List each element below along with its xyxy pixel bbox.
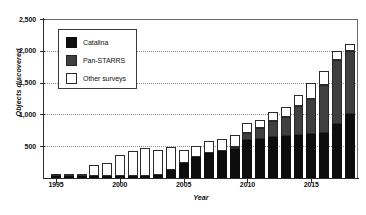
bar-segment-other-surveys bbox=[115, 155, 125, 175]
legend-swatch-pan-starrs bbox=[66, 55, 77, 66]
bar-segment-catalina bbox=[102, 176, 112, 178]
bar-segment-pan-starrs bbox=[345, 51, 355, 115]
x-tick-label: 2000 bbox=[112, 181, 127, 188]
bar-segment-other-surveys bbox=[332, 51, 342, 61]
x-tick-label: 2010 bbox=[240, 181, 255, 188]
bar-segment-other-surveys bbox=[306, 83, 316, 99]
y-tick-label: 500 bbox=[0, 143, 36, 150]
bar-segment-pan-starrs bbox=[294, 106, 304, 135]
bar-segment-other-surveys bbox=[345, 44, 355, 51]
bar-segment-catalina bbox=[281, 136, 291, 178]
bar-segment-pan-starrs bbox=[332, 60, 342, 124]
bar-segment-pan-starrs bbox=[281, 117, 291, 136]
legend-swatch-other-surveys bbox=[66, 73, 77, 84]
bar-segment-catalina bbox=[77, 176, 87, 178]
bar-segment-catalina bbox=[230, 149, 240, 178]
y-tick-label: 2,500 bbox=[0, 16, 36, 23]
bar-2000 bbox=[115, 155, 125, 178]
legend-label-other-surveys: Other surveys bbox=[83, 75, 126, 82]
legend-label-catalina: Catalina bbox=[83, 39, 108, 46]
x-axis-title: Year bbox=[44, 193, 358, 202]
bar-segment-other-surveys bbox=[191, 146, 201, 157]
bar-segment-catalina bbox=[332, 124, 342, 178]
bar-segment-other-surveys bbox=[102, 163, 112, 176]
bar-segment-catalina bbox=[115, 176, 125, 178]
bar-1996 bbox=[64, 177, 74, 178]
bar-segment-other-surveys bbox=[89, 165, 99, 176]
bar-2006 bbox=[191, 146, 201, 178]
bar-1997 bbox=[77, 176, 87, 178]
bar-2002 bbox=[140, 148, 150, 178]
bar-segment-catalina bbox=[319, 133, 329, 178]
bar-segment-catalina bbox=[179, 163, 189, 178]
bar-segment-pan-starrs bbox=[255, 128, 265, 138]
bar-segment-catalina bbox=[345, 114, 355, 178]
bar-segment-catalina bbox=[153, 175, 163, 178]
bar-segment-other-surveys bbox=[242, 123, 252, 133]
bar-segment-pan-starrs bbox=[268, 121, 278, 137]
bar-1999 bbox=[102, 163, 112, 178]
bar-segment-other-surveys bbox=[294, 95, 304, 106]
bar-2001 bbox=[128, 151, 138, 178]
bar-2015 bbox=[306, 83, 316, 178]
bar-segment-other-surveys bbox=[255, 120, 265, 129]
bar-segment-other-surveys bbox=[166, 147, 176, 171]
bar-2016 bbox=[319, 71, 329, 178]
bar-segment-other-surveys bbox=[153, 150, 163, 175]
legend-label-pan-starrs: Pan-STARRS bbox=[83, 57, 125, 64]
bar-segment-catalina bbox=[166, 170, 176, 178]
bar-segment-pan-starrs bbox=[242, 133, 252, 140]
bar-segment-catalina bbox=[242, 140, 252, 178]
bar-segment-catalina bbox=[268, 137, 278, 178]
chart-figure: 5001,0001,5002,0002,500 Objects discover… bbox=[0, 0, 366, 215]
bar-2013 bbox=[281, 107, 291, 178]
bar-segment-catalina bbox=[255, 139, 265, 178]
chart-legend: Catalina Pan-STARRS Other surveys bbox=[58, 29, 137, 89]
bar-2012 bbox=[268, 112, 278, 178]
bar-segment-catalina bbox=[191, 157, 201, 178]
legend-item-other-surveys: Other surveys bbox=[66, 72, 136, 84]
bar-2017 bbox=[332, 51, 342, 178]
bar-segment-catalina bbox=[204, 153, 214, 178]
bar-1995 bbox=[51, 177, 61, 178]
bar-2010 bbox=[242, 123, 252, 178]
bar-segment-catalina bbox=[128, 176, 138, 178]
bar-segment-other-surveys bbox=[281, 107, 291, 117]
bar-2005 bbox=[179, 150, 189, 178]
bar-segment-other-surveys bbox=[140, 148, 150, 176]
bar-2004 bbox=[166, 147, 176, 178]
bar-2007 bbox=[204, 141, 214, 178]
x-tick-label: 2005 bbox=[176, 181, 191, 188]
bar-segment-catalina bbox=[64, 176, 74, 178]
bar-segment-other-surveys bbox=[128, 151, 138, 176]
bar-2014 bbox=[294, 95, 304, 178]
legend-item-pan-starrs: Pan-STARRS bbox=[66, 54, 136, 66]
bar-segment-catalina bbox=[306, 134, 316, 178]
legend-swatch-catalina bbox=[66, 37, 77, 48]
bar-segment-other-surveys bbox=[230, 135, 240, 148]
bar-segment-other-surveys bbox=[319, 71, 329, 85]
bar-2011 bbox=[255, 120, 265, 179]
x-tick-label: 2015 bbox=[304, 181, 319, 188]
bar-segment-pan-starrs bbox=[319, 85, 329, 133]
bar-segment-catalina bbox=[89, 176, 99, 178]
bar-segment-catalina bbox=[294, 135, 304, 178]
bar-segment-catalina bbox=[217, 151, 227, 178]
bar-segment-other-surveys bbox=[179, 150, 189, 163]
x-tick-label: 1995 bbox=[48, 181, 63, 188]
bar-segment-catalina bbox=[51, 176, 61, 178]
legend-item-catalina: Catalina bbox=[66, 36, 136, 48]
bar-segment-pan-starrs bbox=[306, 99, 316, 135]
bar-segment-catalina bbox=[140, 176, 150, 178]
bar-2018 bbox=[345, 44, 355, 178]
bar-2008 bbox=[217, 139, 227, 178]
bar-1998 bbox=[89, 165, 99, 178]
y-axis-title: Objects discovered bbox=[14, 23, 23, 143]
bar-2003 bbox=[153, 150, 163, 178]
bar-segment-other-surveys bbox=[268, 112, 278, 122]
bar-segment-other-surveys bbox=[204, 141, 214, 153]
bar-2009 bbox=[230, 135, 240, 178]
bar-segment-other-surveys bbox=[217, 139, 227, 151]
